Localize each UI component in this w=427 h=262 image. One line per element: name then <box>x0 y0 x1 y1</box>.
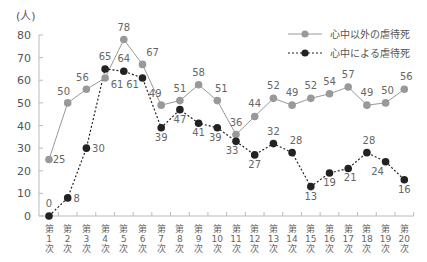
data-point-marker <box>307 95 315 103</box>
y-tick-label: 0 <box>24 210 31 223</box>
x-tick-label: 次 <box>269 243 278 254</box>
data-value-label: 78 <box>117 22 130 33</box>
x-tick-label: 第 <box>157 223 166 234</box>
x-tick-label: 第 <box>82 223 91 234</box>
data-point-marker <box>232 131 240 139</box>
y-tick-label: 80 <box>17 29 31 42</box>
data-value-label: 25 <box>53 154 66 165</box>
data-value-label: 64 <box>117 53 130 64</box>
x-tick-label: 次 <box>63 243 72 254</box>
data-value-label: 30 <box>92 143 105 154</box>
x-tick-label: 第 <box>213 223 222 234</box>
data-value-label: 61 <box>126 79 139 90</box>
y-axis: 01020304050607080 <box>17 29 43 223</box>
x-tick-label: 第 <box>306 223 315 234</box>
x-tick-label: 第 <box>45 223 54 234</box>
data-point-marker <box>326 169 334 177</box>
x-tick-label: 13 <box>268 234 279 244</box>
x-tick-label: 9 <box>196 234 202 244</box>
data-value-label: 49 <box>361 87 374 98</box>
x-tick-label: 第 <box>232 223 241 234</box>
data-value-label: 8 <box>74 193 80 204</box>
x-tick-label: 次 <box>344 243 353 254</box>
y-axis-unit-label: (人) <box>16 10 36 23</box>
data-point-marker <box>101 65 109 73</box>
x-tick-label: 次 <box>101 243 110 254</box>
legend-label-non-shinju: 心中以外の虐待死 <box>330 28 410 40</box>
x-tick-label: 第 <box>250 223 259 234</box>
data-value-label: 44 <box>248 98 261 109</box>
line-chart: (人) 01020304050607080 第1次第2次第3次第4次第5次第6次… <box>0 0 427 262</box>
data-value-label: 50 <box>381 85 394 96</box>
x-tick-label: 3 <box>84 234 90 244</box>
data-value-label: 33 <box>226 145 239 156</box>
data-point-marker <box>101 74 109 82</box>
data-value-label: 28 <box>363 135 376 146</box>
x-tick-label: 20 <box>399 234 411 244</box>
x-tick-label: 次 <box>381 243 390 254</box>
x-tick-label: 次 <box>45 243 54 254</box>
data-point-marker <box>251 151 259 159</box>
data-point-marker <box>382 158 390 166</box>
data-value-label: 49 <box>286 87 299 98</box>
x-tick-label: 第 <box>119 223 128 234</box>
data-point-marker <box>288 149 296 157</box>
data-point-marker <box>64 194 72 202</box>
x-tick-label: 16 <box>324 234 336 244</box>
x-tick-label: 次 <box>194 243 203 254</box>
x-tick-label: 第 <box>344 223 353 234</box>
x-tick-label: 次 <box>362 243 371 254</box>
x-tick-label: 第 <box>194 223 203 234</box>
data-point-marker <box>307 183 315 191</box>
y-tick-label: 60 <box>17 74 31 87</box>
x-tick-label: 次 <box>138 243 147 254</box>
data-point-marker <box>120 36 128 44</box>
x-tick-label: 次 <box>250 243 259 254</box>
data-point-marker <box>157 101 165 109</box>
y-tick-label: 20 <box>17 165 31 178</box>
legend-marker-gray-icon <box>301 30 308 37</box>
x-tick-label: 6 <box>140 234 146 244</box>
data-point-marker <box>363 149 371 157</box>
data-point-marker <box>83 144 91 152</box>
data-value-label: 28 <box>290 135 303 146</box>
data-value-label: 39 <box>155 132 168 143</box>
data-value-label: 19 <box>323 177 336 188</box>
x-tick-label: 次 <box>306 243 315 254</box>
x-tick-label: 次 <box>232 243 241 254</box>
legend: 心中以外の虐待死 心中による虐待死 <box>288 28 410 59</box>
data-value-label: 52 <box>267 80 280 91</box>
x-tick-label: 第 <box>101 223 110 234</box>
x-tick-label: 15 <box>305 234 316 244</box>
data-value-label: 32 <box>267 126 280 137</box>
data-point-marker <box>139 74 147 82</box>
x-tick-label: 10 <box>212 234 224 244</box>
data-value-label: 21 <box>344 172 357 183</box>
data-value-label: 57 <box>342 69 355 80</box>
x-tick-label: 第 <box>175 223 184 234</box>
x-tick-label: 17 <box>342 234 353 244</box>
y-tick-label: 40 <box>17 120 31 133</box>
data-value-label: 58 <box>192 67 205 78</box>
data-value-label: 50 <box>57 86 70 97</box>
x-tick-label: 第 <box>138 223 147 234</box>
x-tick-label: 2 <box>65 234 71 244</box>
x-tick-label: 第 <box>400 223 409 234</box>
x-tick-label: 第 <box>63 223 72 234</box>
data-point-marker <box>83 86 91 94</box>
data-value-label: 0 <box>46 198 52 209</box>
data-point-marker <box>270 95 278 103</box>
x-tick-label: 第 <box>269 223 278 234</box>
data-value-label: 41 <box>192 127 205 138</box>
data-value-label: 36 <box>230 117 243 128</box>
data-value-label: 13 <box>304 191 317 202</box>
data-point-marker <box>214 97 222 105</box>
data-point-marker <box>288 101 296 109</box>
x-tick-label: 次 <box>82 243 91 254</box>
data-point-marker <box>344 83 352 91</box>
x-tick-label: 第 <box>325 223 334 234</box>
x-tick-label: 18 <box>361 234 373 244</box>
x-tick-label: 次 <box>119 243 128 254</box>
data-point-marker <box>326 90 334 98</box>
data-point-marker <box>401 86 409 94</box>
